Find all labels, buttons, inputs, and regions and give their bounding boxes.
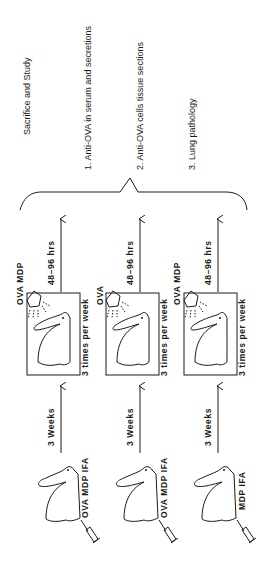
rabbit-icon xyxy=(116,467,158,522)
challenge-box xyxy=(106,293,159,375)
outcome-item-1: 1. Anti-OVA in serum and secretions xyxy=(83,26,93,170)
frequency-label: 3 times per week xyxy=(237,298,247,376)
challenge-box xyxy=(184,293,237,375)
outcome-item-3: 3. Lung pathology xyxy=(187,98,197,170)
challenge-label: OVA MDP xyxy=(15,262,25,305)
frequency-label: 3 times per week xyxy=(80,298,90,376)
immunization-label: OVA MDP IFA xyxy=(80,457,90,518)
immunization-label: OVA MDP IFA xyxy=(159,457,169,518)
interval-label: 3 Weeks xyxy=(46,408,56,446)
challenge-box xyxy=(27,293,80,375)
rabbit-icon xyxy=(113,313,149,366)
interval-label: 3 Weeks xyxy=(125,408,135,446)
grouping-brace xyxy=(20,178,247,210)
frequency-label: 3 times per week xyxy=(159,298,169,376)
challenge-label: OVA xyxy=(95,285,105,305)
rabbit-icon xyxy=(191,313,227,366)
group-1: 48–96 hrs OVA MDP 3 times per week 3 Wee… xyxy=(15,219,100,543)
group-2: 48–96 hrs OVA 3 times per week 3 Weeks O… xyxy=(95,219,178,543)
syringe-icon xyxy=(237,520,256,543)
immunization-label: MDP IFA xyxy=(237,471,247,510)
wait-label: 48–96 hrs xyxy=(46,240,56,285)
wait-label: 48–96 hrs xyxy=(125,240,135,285)
syringe-icon xyxy=(81,520,100,543)
challenge-label: OVA MDP xyxy=(172,262,182,305)
experiment-diagram: Sacrifice and Study 1. Anti-OVA in serum… xyxy=(0,0,271,561)
rabbit-icon xyxy=(38,467,80,522)
syringe-icon xyxy=(159,520,178,543)
rabbit-icon xyxy=(194,467,236,522)
wait-label: 48–96 hrs xyxy=(203,240,213,285)
outcome-item-2: 2. Anti-OVA cells tissue sections xyxy=(135,42,145,170)
rabbit-icon xyxy=(34,313,70,366)
interval-label: 3 Weeks xyxy=(203,408,213,446)
sacrifice-and-study-label: Sacrifice and Study xyxy=(22,57,32,135)
group-3: 48–96 hrs OVA MDP 3 times per week 3 Wee… xyxy=(172,219,256,543)
